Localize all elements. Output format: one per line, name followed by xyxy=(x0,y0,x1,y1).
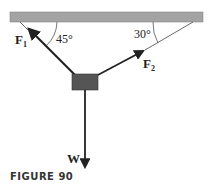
figure-caption: FIGURE 90 xyxy=(10,171,73,182)
label-angle-45: 45° xyxy=(56,32,73,46)
rope-right xyxy=(145,22,193,50)
label-f2: F2 xyxy=(143,56,155,73)
label-angle-30: 30° xyxy=(134,27,151,41)
hanging-block xyxy=(72,74,98,90)
angle-arc-30 xyxy=(153,22,158,43)
force-f2-arrow xyxy=(96,51,143,76)
force-diagram: F1 45° 30° F2 W FIGURE 90 xyxy=(0,0,215,191)
label-f1: F1 xyxy=(15,32,27,49)
rope-left xyxy=(20,22,28,30)
ceiling xyxy=(10,12,203,22)
label-w: W xyxy=(67,151,80,166)
